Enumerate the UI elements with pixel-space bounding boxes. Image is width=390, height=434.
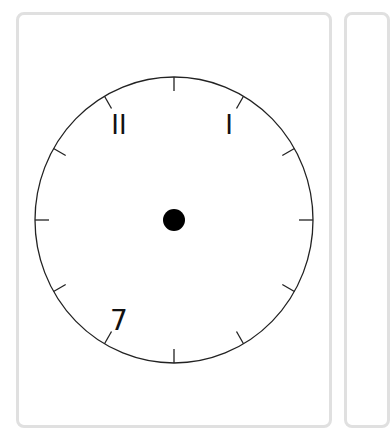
label-1: I — [225, 110, 233, 140]
center-dot — [163, 209, 185, 231]
next-card-edge — [344, 12, 390, 428]
label-7: 7 — [110, 304, 128, 337]
label-11: II — [111, 110, 126, 140]
